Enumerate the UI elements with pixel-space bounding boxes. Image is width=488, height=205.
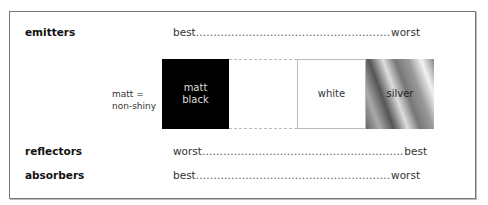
emitters-scale: best ...................................… (173, 26, 420, 38)
note-line-2: non-shiny (112, 100, 156, 112)
surface-blank (229, 59, 297, 129)
absorbers-label: absorbers (25, 169, 84, 181)
emitters-label: emitters (25, 26, 75, 38)
emitters-start: best (173, 26, 196, 38)
surface-matt-black: mattblack (162, 59, 229, 129)
reflectors-scale: worst ..................................… (173, 145, 427, 157)
absorbers-end: worst (391, 169, 420, 181)
surface-silver: silver (366, 59, 434, 129)
matt-note: matt = non-shiny (112, 88, 156, 112)
surface-white: white (297, 59, 366, 129)
surface-label: silver (387, 88, 414, 100)
surface-label: black (182, 94, 209, 106)
note-line-1: matt = (112, 88, 156, 100)
reflectors-end: best (404, 145, 427, 157)
absorbers-start: best (173, 169, 196, 181)
dotted-line: ........................................… (196, 26, 391, 38)
emitters-end: worst (391, 26, 420, 38)
surface-label: matt (182, 82, 209, 94)
reflectors-label: reflectors (25, 145, 82, 157)
reflectors-start: worst (173, 145, 202, 157)
dotted-line: ........................................… (196, 169, 391, 181)
surface-label: white (318, 88, 345, 100)
absorbers-scale: best ...................................… (173, 169, 420, 181)
dotted-line: ........................................… (202, 145, 404, 157)
